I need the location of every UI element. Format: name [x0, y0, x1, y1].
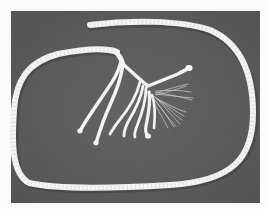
strand-tip [185, 65, 192, 71]
photo-frame: Grayscale photograph of a white twisted … [0, 0, 267, 209]
strand-tip [77, 129, 82, 134]
rope-photo [0, 0, 267, 209]
strand-tip [145, 133, 151, 138]
strand-tip [93, 141, 98, 146]
